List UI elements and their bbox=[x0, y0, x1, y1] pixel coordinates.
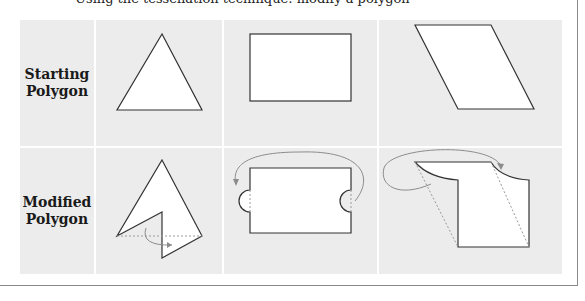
row-label-modified: Modified Polygon bbox=[20, 148, 94, 274]
modified-triangle-shape bbox=[96, 148, 222, 274]
translation-arrow-icon bbox=[497, 163, 504, 170]
row-label-line2: Polygon bbox=[23, 211, 92, 228]
row-label-starting: Starting Polygon bbox=[20, 20, 94, 146]
rectangle-shape bbox=[224, 20, 377, 146]
starting-parallelogram-cell bbox=[379, 20, 562, 146]
modified-rectangle-shape bbox=[224, 148, 377, 274]
row-label-line2: Polygon bbox=[25, 83, 90, 100]
modified-parallelogram-cell bbox=[379, 148, 562, 274]
cropped-caption: Using the tessellation technique: modify… bbox=[75, 0, 410, 6]
modified-triangle-cell bbox=[96, 148, 222, 274]
modified-parallelogram-shape bbox=[379, 148, 562, 274]
translation-arrow-icon bbox=[233, 179, 239, 186]
frame-border-right bbox=[577, 0, 578, 286]
row-label-line1: Modified bbox=[23, 194, 92, 211]
row-label-line1: Starting bbox=[25, 66, 90, 83]
triangle-shape bbox=[96, 20, 222, 146]
polygon-table: Starting Polygon Modified Polygon bbox=[20, 20, 562, 274]
parallelogram-shape bbox=[379, 20, 562, 146]
starting-rectangle-cell bbox=[224, 20, 377, 146]
frame-border-bottom bbox=[0, 285, 578, 286]
modified-rectangle-cell bbox=[224, 148, 377, 274]
starting-triangle-cell bbox=[96, 20, 222, 146]
